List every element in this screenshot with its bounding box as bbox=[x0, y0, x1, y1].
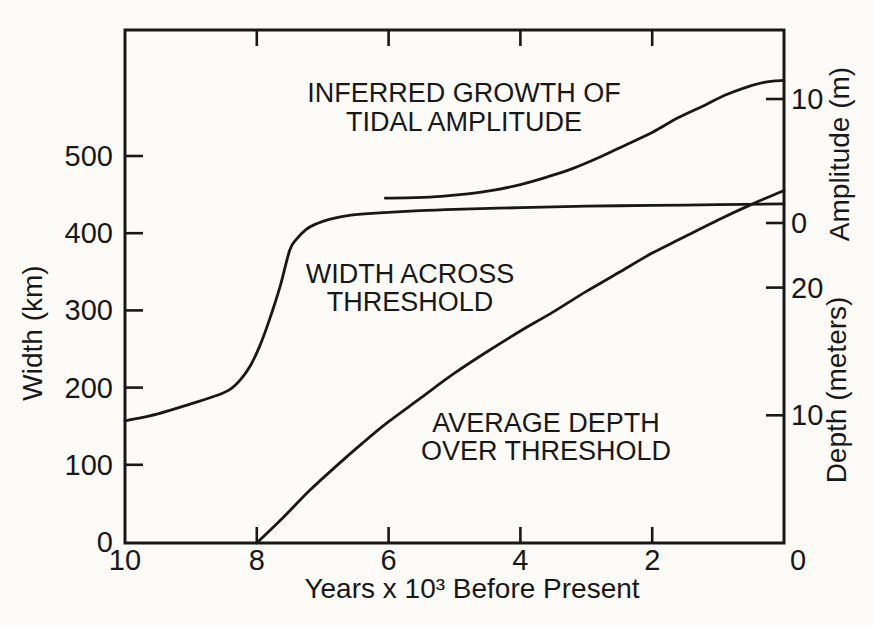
y-left-axis-title: Width (km) bbox=[17, 265, 48, 400]
annotation-average-depth-line1: AVERAGE DEPTH bbox=[432, 408, 660, 438]
width-tick-label-400: 400 bbox=[65, 217, 113, 249]
depth-axis-title: Depth (meters) bbox=[821, 297, 852, 484]
x-tick-label-2: 2 bbox=[644, 544, 660, 576]
curve-average-depth-over-threshold bbox=[257, 191, 784, 544]
width-tick-label-100: 100 bbox=[65, 449, 113, 481]
figure-page: 108642001002003004005001002010 INFERRED … bbox=[0, 0, 873, 625]
x-axis-title: Years x 10³ Before Present bbox=[304, 573, 639, 604]
width-tick-label-0: 0 bbox=[97, 526, 113, 558]
depth-tick-label-10: 10 bbox=[791, 399, 823, 431]
annotation-average-depth-line2: OVER THRESHOLD bbox=[421, 436, 671, 466]
tidal-threshold-chart: 108642001002003004005001002010 INFERRED … bbox=[0, 0, 873, 625]
depth-tick-label-20: 20 bbox=[791, 272, 823, 304]
x-tick-label-6: 6 bbox=[381, 544, 397, 576]
annotation-tidal-amplitude-line1: INFERRED GROWTH OF bbox=[307, 78, 620, 108]
x-tick-label-0: 0 bbox=[790, 544, 806, 576]
annotation-width-across-line2: THRESHOLD bbox=[327, 287, 494, 317]
annotation-tidal-amplitude-line2: TIDAL AMPLITUDE bbox=[346, 107, 582, 137]
width-tick-label-300: 300 bbox=[65, 294, 113, 326]
tick-labels-layer: 108642001002003004005001002010 bbox=[65, 83, 824, 576]
amplitude-tick-label-0: 0 bbox=[791, 207, 807, 239]
width-tick-label-200: 200 bbox=[65, 372, 113, 404]
x-tick-label-10: 10 bbox=[109, 544, 141, 576]
width-tick-label-500: 500 bbox=[65, 140, 113, 172]
annotation-width-across-line1: WIDTH ACROSS bbox=[306, 259, 515, 289]
x-tick-label-8: 8 bbox=[249, 544, 265, 576]
amplitude-axis-title: Amplitude (m) bbox=[824, 67, 855, 241]
x-tick-label-4: 4 bbox=[512, 544, 528, 576]
amplitude-tick-label-10: 10 bbox=[791, 83, 823, 115]
